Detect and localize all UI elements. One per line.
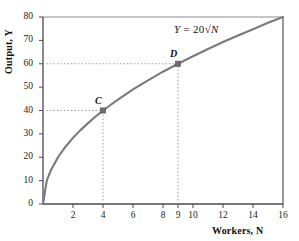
x-tick-label-4: 4 <box>92 210 114 220</box>
x-tick-label-16: 16 <box>272 210 294 220</box>
x-tick-label-14: 14 <box>242 210 264 220</box>
y-tick-label-60: 60 <box>11 58 33 68</box>
plot-canvas <box>0 0 299 241</box>
point-label-c: C <box>95 95 102 106</box>
data-point-d <box>175 61 180 66</box>
equation-radicand: N <box>211 23 219 35</box>
chart-figure: Output, Y Workers, N Y = 20√N 0102030405… <box>0 0 299 241</box>
x-tick-label-10: 10 <box>182 210 204 220</box>
data-point-c <box>100 108 105 113</box>
y-axis-title: Output, Y <box>3 22 14 82</box>
y-tick-label-40: 40 <box>11 105 33 115</box>
equation-lhs: Y <box>174 23 180 35</box>
equation-equals: = <box>183 23 190 35</box>
y-tick-label-30: 30 <box>11 128 33 138</box>
x-tick-label-12: 12 <box>212 210 234 220</box>
y-tick-label-20: 20 <box>11 151 33 161</box>
equation-annotation: Y = 20√N <box>174 23 219 35</box>
y-tick-label-80: 80 <box>11 11 33 21</box>
y-tick-label-70: 70 <box>11 34 33 44</box>
x-tick-label-2: 2 <box>62 210 84 220</box>
y-tick-label-50: 50 <box>11 81 33 91</box>
y-tick-label-0: 0 <box>11 198 33 208</box>
point-label-d: D <box>170 48 177 59</box>
x-tick-label-6: 6 <box>122 210 144 220</box>
x-axis-title: Workers, N <box>212 225 263 236</box>
equation-coefficient: 20 <box>193 23 205 35</box>
y-tick-label-10: 10 <box>11 175 33 185</box>
